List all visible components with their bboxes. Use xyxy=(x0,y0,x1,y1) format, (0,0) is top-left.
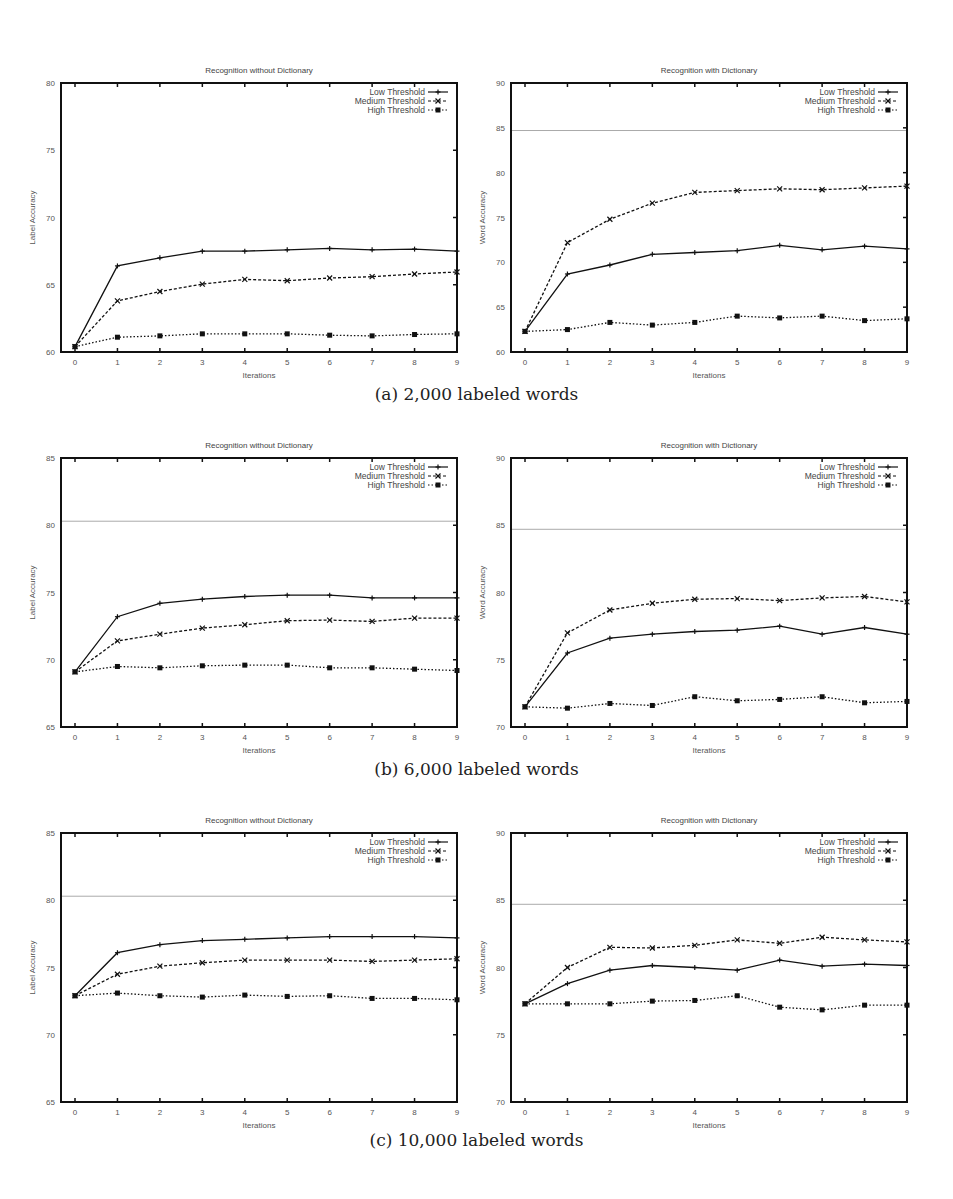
y-tick-label: 80 xyxy=(46,896,55,905)
line-chart-svg: Recognition without Dictionary6065707580… xyxy=(0,60,470,380)
x-tick-label: 3 xyxy=(200,358,205,367)
y-tick-label: 85 xyxy=(46,454,55,463)
x-tick-label: 2 xyxy=(158,733,163,742)
chart-b-right: Recognition with Dictionary7075808590012… xyxy=(450,435,920,755)
x-tick-label: 0 xyxy=(73,733,78,742)
x-tick-label: 0 xyxy=(523,733,528,742)
y-tick-label: 70 xyxy=(46,214,55,223)
x-tick-label: 3 xyxy=(650,1108,655,1117)
x-tick-label: 4 xyxy=(693,733,698,742)
legend-label: High Threshold xyxy=(818,855,876,865)
y-tick-label: 60 xyxy=(496,348,505,357)
series-low-threshold xyxy=(523,958,910,1007)
x-tick-label: 6 xyxy=(327,1108,332,1117)
y-tick-label: 70 xyxy=(496,258,505,267)
y-axis-label: Label Accuracy xyxy=(28,190,37,244)
x-tick-label: 4 xyxy=(693,1108,698,1117)
caption-c: (c) 10,000 labeled words xyxy=(0,1130,953,1150)
y-tick-label: 75 xyxy=(46,589,55,598)
series-low-threshold xyxy=(523,624,910,710)
x-tick-label: 0 xyxy=(523,1108,528,1117)
series-low-threshold xyxy=(73,934,460,998)
y-tick-label: 65 xyxy=(46,281,55,290)
x-tick-label: 8 xyxy=(862,733,867,742)
y-axis-label: Label Accuracy xyxy=(28,565,37,619)
chart-a-right: Recognition with Dictionary6065707580859… xyxy=(450,60,920,380)
x-tick-label: 8 xyxy=(412,358,417,367)
plot-frame xyxy=(511,458,907,727)
x-tick-label: 3 xyxy=(650,358,655,367)
plot-frame xyxy=(511,83,907,352)
x-tick-label: 2 xyxy=(608,358,613,367)
x-axis-label: Iterations xyxy=(243,371,276,380)
chart-a-left: Recognition without Dictionary6065707580… xyxy=(0,60,470,380)
y-tick-label: 75 xyxy=(496,656,505,665)
legend-label: High Threshold xyxy=(368,105,426,115)
y-tick-label: 80 xyxy=(496,589,505,598)
y-tick-label: 65 xyxy=(496,303,505,312)
plot-frame xyxy=(61,458,457,727)
chart-c-left: Recognition without Dictionary6570758085… xyxy=(0,810,470,1130)
series-high-threshold xyxy=(523,314,910,334)
series-low-threshold xyxy=(523,243,910,334)
y-tick-label: 90 xyxy=(496,79,505,88)
series-high-threshold xyxy=(73,331,460,349)
y-tick-label: 75 xyxy=(46,964,55,973)
chart-legend: Low ThresholdMedium ThresholdHigh Thresh… xyxy=(355,837,448,865)
series-high-threshold xyxy=(523,993,910,1012)
line-chart-svg: Recognition with Dictionary7075808590012… xyxy=(450,810,920,1130)
y-tick-label: 60 xyxy=(46,348,55,357)
y-tick-label: 90 xyxy=(496,829,505,838)
x-tick-label: 1 xyxy=(115,1108,120,1117)
x-tick-label: 4 xyxy=(243,1108,248,1117)
x-tick-label: 5 xyxy=(735,733,740,742)
caption-b: (b) 6,000 labeled words xyxy=(0,759,953,779)
x-tick-label: 2 xyxy=(158,358,163,367)
series-low-threshold xyxy=(73,593,460,675)
x-tick-label: 0 xyxy=(523,358,528,367)
y-axis-label: Word Accuracy xyxy=(478,191,487,245)
x-tick-label: 7 xyxy=(370,733,375,742)
series-medium-threshold xyxy=(523,935,910,1007)
chart-legend: Low ThresholdMedium ThresholdHigh Thresh… xyxy=(355,462,448,490)
x-tick-label: 1 xyxy=(565,733,570,742)
chart-legend: Low ThresholdMedium ThresholdHigh Thresh… xyxy=(805,87,898,115)
x-tick-label: 8 xyxy=(412,733,417,742)
x-tick-label: 6 xyxy=(327,733,332,742)
x-tick-label: 7 xyxy=(820,733,825,742)
x-tick-label: 5 xyxy=(285,733,290,742)
x-tick-label: 9 xyxy=(905,733,910,742)
y-tick-label: 85 xyxy=(46,829,55,838)
series-medium-threshold xyxy=(73,616,460,675)
y-tick-label: 85 xyxy=(496,521,505,530)
plot-frame xyxy=(511,833,907,1102)
legend-label: High Threshold xyxy=(368,855,426,865)
x-tick-label: 7 xyxy=(820,1108,825,1117)
y-tick-label: 75 xyxy=(46,146,55,155)
plot-frame xyxy=(61,833,457,1102)
chart-b-left: Recognition without Dictionary6570758085… xyxy=(0,435,470,755)
x-tick-label: 6 xyxy=(327,358,332,367)
y-axis-label: Label Accuracy xyxy=(28,940,37,994)
series-medium-threshold xyxy=(523,184,910,334)
x-tick-label: 9 xyxy=(905,1108,910,1117)
plot-frame xyxy=(61,83,457,352)
y-tick-label: 80 xyxy=(496,964,505,973)
x-tick-label: 1 xyxy=(115,358,120,367)
x-axis-label: Iterations xyxy=(243,1121,276,1130)
chart-legend: Low ThresholdMedium ThresholdHigh Thresh… xyxy=(805,837,898,865)
x-tick-label: 1 xyxy=(565,1108,570,1117)
x-tick-label: 7 xyxy=(370,1108,375,1117)
line-chart-svg: Recognition without Dictionary6570758085… xyxy=(0,435,470,755)
x-tick-label: 5 xyxy=(285,1108,290,1117)
y-axis-label: Word Accuracy xyxy=(478,566,487,620)
series-medium-threshold xyxy=(73,956,460,998)
x-tick-label: 3 xyxy=(200,733,205,742)
chart-title: Recognition with Dictionary xyxy=(661,441,758,450)
chart-legend: Low ThresholdMedium ThresholdHigh Thresh… xyxy=(355,87,448,115)
line-chart-svg: Recognition with Dictionary6065707580859… xyxy=(450,60,920,380)
caption-a: (a) 2,000 labeled words xyxy=(0,384,953,404)
x-tick-label: 7 xyxy=(820,358,825,367)
y-tick-label: 70 xyxy=(496,723,505,732)
x-tick-label: 2 xyxy=(158,1108,163,1117)
